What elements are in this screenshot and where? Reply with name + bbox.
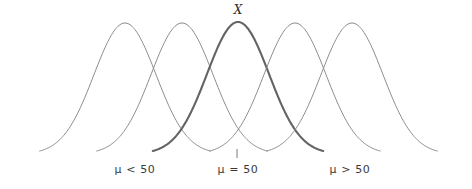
bell-curve-4 [210,23,381,151]
variable-x-label: X [208,3,268,17]
bell-curve-3 [153,22,324,151]
bell-curve-5 [267,23,438,151]
normal-curves-figure: X μ < 50 μ = 50 μ > 50 [0,0,472,189]
bell-curve-1 [40,23,211,151]
label-mu-greater-than-50: μ > 50 [280,163,420,176]
curve-group [40,22,438,151]
curves-canvas [0,0,472,189]
bell-curve-2 [97,23,268,151]
